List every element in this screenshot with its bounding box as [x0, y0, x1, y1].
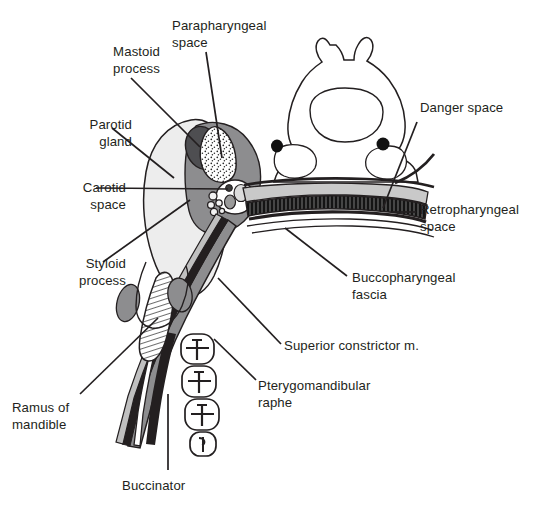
- cervical-vertebra: [271, 38, 418, 182]
- label-parapharyngeal-space: Parapharyngeal space: [172, 18, 296, 51]
- vertebral-artery-left: [271, 140, 283, 153]
- leader-superior-constrictor: [218, 278, 281, 344]
- teeth-row: [181, 334, 219, 456]
- leader-pterygomandibular-raphe: [214, 339, 256, 380]
- label-superior-constrictor: Superior constrictor m.: [284, 338, 484, 355]
- label-mastoid-process: Mastoid process: [64, 44, 160, 77]
- tooth-molar-1: [181, 334, 214, 364]
- label-buccopharyngeal-fascia: Buccopharyngeal fascia: [352, 270, 492, 303]
- label-danger-space: Danger space: [420, 100, 537, 117]
- label-pterygomandibular-raphe: Pterygomandibular raphe: [258, 378, 418, 411]
- label-parotid-gland: Parotid gland: [36, 117, 132, 150]
- label-ramus-of-mandible: Ramus of mandible: [12, 400, 122, 433]
- vertebral-artery-right: [377, 138, 390, 151]
- label-buccinator: Buccinator: [122, 478, 232, 495]
- label-carotid-space: Carotid space: [30, 180, 126, 213]
- tooth-molar-2: [182, 366, 216, 397]
- tooth-premolar: [190, 432, 216, 456]
- tooth-molar-3: [185, 399, 219, 430]
- figure-canvas: Mastoid process Parapharyngeal space Par…: [0, 0, 537, 518]
- leader-buccopharyngeal-fascia: [285, 228, 347, 276]
- buccopharyngeal-line: [247, 212, 434, 237]
- label-styloid-process: Styloid process: [36, 256, 126, 289]
- label-retropharyngeal-space: Retropharyngeal space: [420, 202, 537, 235]
